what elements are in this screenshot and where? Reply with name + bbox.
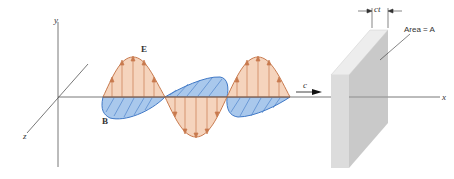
thickness-label: ct — [374, 5, 381, 14]
x-axis-label: x — [442, 93, 446, 102]
electric-field-label: E — [141, 45, 147, 54]
electric-field-lobe-3 — [227, 57, 290, 97]
slab-front — [331, 75, 349, 168]
magnetic-field-lobe-3 — [227, 97, 290, 117]
magnetic-field-lobe-1 — [102, 97, 165, 119]
slab — [331, 30, 388, 168]
wave-direction-arrow — [296, 89, 322, 95]
z-axis — [27, 64, 88, 133]
magnetic-field-label: B — [102, 117, 108, 126]
area-label: Area = A — [404, 26, 435, 34]
magnetic-field-lobe-2 — [165, 77, 228, 97]
em-wave-diagram — [0, 0, 454, 179]
wave-speed-label: c — [303, 81, 307, 90]
y-axis-label: y — [54, 16, 58, 25]
z-axis-label: z — [23, 132, 27, 141]
